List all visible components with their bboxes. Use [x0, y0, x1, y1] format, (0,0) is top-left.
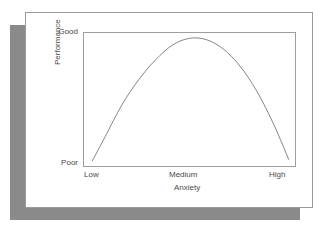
- x-tick-label-medium: Medium: [169, 171, 197, 179]
- plot-area: [83, 32, 296, 167]
- x-axis-title: Anxiety: [174, 184, 200, 192]
- y-tick-label-poor: Poor: [61, 159, 78, 167]
- figure-stack: Performance Good Poor Low Medium High An…: [0, 0, 329, 232]
- performance-curve-line: [92, 38, 288, 161]
- y-tick-label-good: Good: [58, 28, 78, 36]
- x-tick-label-high: High: [269, 171, 285, 179]
- x-tick-label-low: Low: [84, 171, 99, 179]
- performance-curve-chart: [84, 33, 295, 166]
- figure-card: Performance Good Poor Low Medium High An…: [25, 12, 313, 208]
